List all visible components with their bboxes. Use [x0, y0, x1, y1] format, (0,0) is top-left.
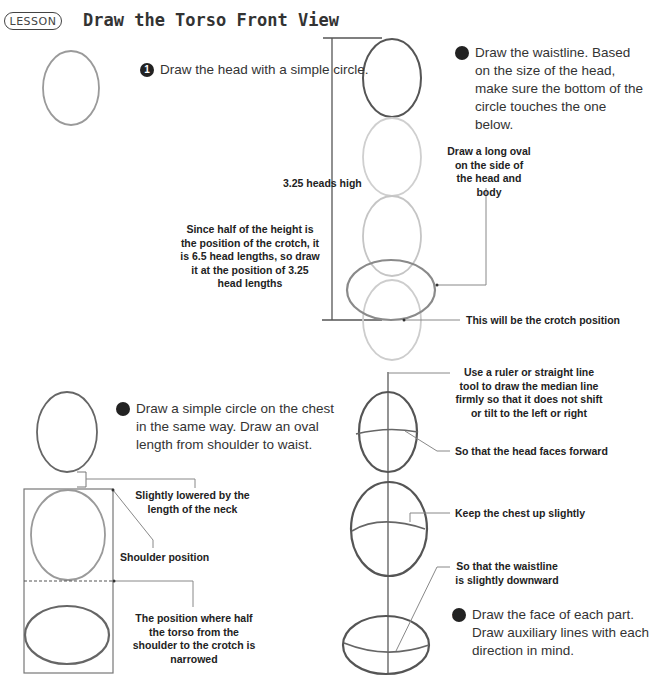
- neck-bracket: [77, 472, 86, 487]
- step-2-number: 2: [455, 46, 469, 60]
- step-1-number: 1: [140, 63, 154, 77]
- chest-leader-line: [410, 513, 450, 522]
- step1-head-oval: [43, 51, 99, 125]
- step4-waist-oval: [343, 616, 429, 674]
- waist-leader-line: [396, 567, 450, 651]
- long-oval-leader-line: [437, 188, 486, 285]
- heads-high-label: 3.25 heads high: [283, 177, 362, 191]
- half-height-note: Since half of the height is the position…: [180, 223, 320, 291]
- step-3-text: Draw a simple circle on the chest in the…: [136, 401, 334, 452]
- head-forward-note: So that the head faces forward: [455, 445, 608, 459]
- step3-waist-oval: [25, 606, 109, 664]
- step3-head-oval: [37, 392, 97, 472]
- step2-head-unit-2: [363, 118, 421, 196]
- step-3-number: 3: [116, 402, 130, 416]
- crotch-position-note: This will be the crotch position: [466, 314, 620, 328]
- neck-lowered-note: Slightly lowered by the length of the ne…: [135, 489, 250, 516]
- torso-half-note: The position where half the torso from t…: [130, 612, 258, 666]
- head-forward-leader-line: [405, 431, 450, 451]
- step-3: 3Draw a simple circle on the chest in th…: [116, 400, 336, 454]
- step-1-text: Draw the head with a simple circle.: [160, 62, 369, 77]
- step-4-number: 4: [452, 608, 466, 622]
- step-2: 2Draw the waistline. Based on the size o…: [455, 44, 645, 134]
- waist-cross-line: [344, 643, 429, 652]
- step-2-text: Draw the waistline. Based on the size of…: [475, 45, 643, 132]
- long-oval-note: Draw a long oval on the side of the head…: [447, 145, 531, 199]
- step-4-text: Draw the face of each part. Draw auxilia…: [472, 607, 649, 658]
- waist-down-note: So that the waistline is slightly downwa…: [452, 560, 562, 587]
- neck-leader-line: [86, 479, 195, 488]
- step3-chest-oval: [31, 490, 105, 580]
- step-1: 1Draw the head with a simple circle.: [140, 61, 370, 79]
- chest-up-note: Keep the chest up slightly: [455, 507, 585, 521]
- step2-head-oval: [363, 39, 421, 117]
- median-line-note: Use a ruler or straight line tool to dra…: [454, 366, 604, 420]
- step4-chest-oval: [351, 482, 427, 576]
- torso-half-leader-line: [114, 581, 193, 607]
- step-4: 4Draw the face of each part. Draw auxili…: [452, 606, 652, 660]
- step2-waist-oval: [347, 260, 435, 320]
- shoulder-position-note: Shoulder position: [120, 551, 209, 565]
